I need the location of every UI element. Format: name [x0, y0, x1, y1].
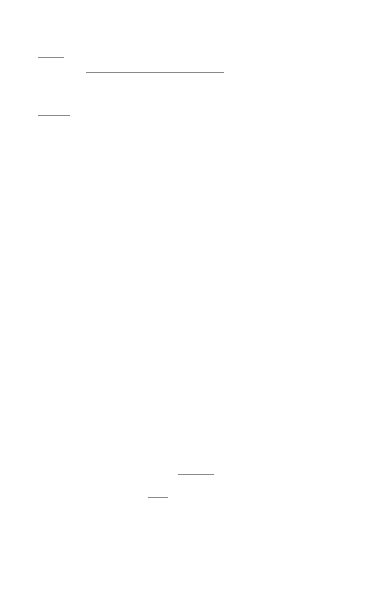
family-tree-diagram	[0, 0, 379, 590]
line-thorkils-to-gytha	[38, 115, 70, 116]
line-wulfnoth-to-godwine	[38, 57, 64, 58]
line-aelfgar-aelgifu-children	[178, 474, 214, 475]
line-gytha-godwine-children	[86, 72, 224, 73]
line-leofric-to-aelfgar	[148, 497, 168, 498]
